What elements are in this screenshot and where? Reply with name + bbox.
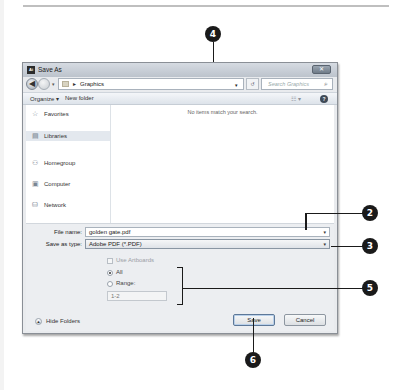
range-radio[interactable] xyxy=(107,281,113,287)
file-name-value: golden gate.pdf xyxy=(89,229,130,235)
sidebar-item-libraries[interactable]: ▤ Libraries xyxy=(26,131,110,141)
address-dropdown-icon[interactable]: ▾ xyxy=(235,82,238,88)
address-bar[interactable]: ▸ Graphics ▾ xyxy=(58,78,244,90)
organize-button[interactable]: Organize ▾ xyxy=(30,95,59,102)
search-input[interactable]: Search Graphics ⌕ xyxy=(261,78,333,90)
range-input[interactable]: 1-2 xyxy=(107,291,167,301)
back-button[interactable]: ◀ xyxy=(26,78,38,90)
all-radio[interactable] xyxy=(107,270,113,276)
back-arrow-icon: ◀ xyxy=(29,79,35,88)
chevron-down-icon[interactable]: ▾ xyxy=(323,241,326,247)
range-value: 1-2 xyxy=(111,293,120,299)
callout-2: 2 xyxy=(362,205,378,221)
close-icon: ✕ xyxy=(319,66,324,72)
use-artboards-label: Use Artboards xyxy=(116,257,154,263)
all-radio-label: All xyxy=(116,269,123,275)
cancel-button[interactable]: Cancel xyxy=(284,314,326,326)
sidebar-item-label: Homegroup xyxy=(44,160,75,166)
search-placeholder: Search Graphics xyxy=(268,81,309,87)
refresh-button[interactable]: ↺ xyxy=(246,78,259,90)
empty-results-message: No items match your search. xyxy=(111,109,334,115)
hide-folders-icon[interactable]: ▲ xyxy=(35,318,42,325)
new-folder-button[interactable]: New folder xyxy=(65,95,94,101)
title-bar: Ai Save As ✕ xyxy=(23,63,337,77)
illustrator-app-icon: Ai xyxy=(27,66,35,74)
refresh-icon: ↺ xyxy=(250,81,254,87)
use-artboards-checkbox[interactable] xyxy=(107,258,113,264)
sidebar-item-label: Libraries xyxy=(44,133,67,139)
range-radio-label: Range: xyxy=(116,280,135,286)
callout-4: 4 xyxy=(205,26,221,42)
save-button[interactable]: Save xyxy=(233,314,275,326)
navigation-pane: ☆ Favorites ▤ Libraries ⚇ Homegroup ▣ Co… xyxy=(26,105,111,223)
computer-icon: ▣ xyxy=(32,180,39,188)
save-as-type-value: Adobe PDF (*.PDF) xyxy=(89,241,142,247)
callout-3: 3 xyxy=(362,238,378,254)
close-button[interactable]: ✕ xyxy=(312,65,331,74)
navigation-bar: ◀ ▾ ▸ Graphics ▾ ↺ Search Graphics ⌕ xyxy=(23,77,337,92)
file-name-label: File name: xyxy=(32,229,82,235)
top-rule-divider xyxy=(23,5,389,7)
dialog-title: Save As xyxy=(38,66,62,73)
sidebar-item-label: Network xyxy=(44,202,66,208)
callout-5-leader-line xyxy=(183,288,363,290)
save-as-type-select[interactable]: Adobe PDF (*.PDF) ▾ xyxy=(85,239,330,249)
folder-icon xyxy=(62,81,69,87)
callout-2-leader-vertical xyxy=(305,213,307,230)
search-icon[interactable]: ⌕ xyxy=(324,80,328,88)
breadcrumb-graphics[interactable]: Graphics xyxy=(80,81,104,87)
forward-button[interactable] xyxy=(38,78,50,90)
callout-6-leader-line xyxy=(253,318,255,354)
homegroup-icon: ⚇ xyxy=(32,159,38,167)
page-left-edge xyxy=(0,0,4,390)
network-icon: ⛁ xyxy=(32,201,38,209)
sidebar-item-network[interactable]: ⛁ Network xyxy=(26,200,110,210)
callout-5: 5 xyxy=(362,280,378,296)
callout-5-bracket xyxy=(177,267,183,305)
callout-2-leader-line xyxy=(305,213,363,215)
file-name-input[interactable]: golden gate.pdf ▾ xyxy=(85,227,330,237)
sidebar-item-homegroup[interactable]: ⚇ Homegroup xyxy=(26,158,110,168)
callout-3-leader-line xyxy=(331,246,363,248)
file-list-pane[interactable]: No items match your search. xyxy=(111,105,334,223)
sidebar-item-computer[interactable]: ▣ Computer xyxy=(26,179,110,189)
change-view-button[interactable]: ☷ ▾ xyxy=(291,95,301,102)
sidebar-item-favorites[interactable]: ☆ Favorites xyxy=(26,109,110,119)
sidebar-item-label: Computer xyxy=(44,181,70,187)
recent-pages-dropdown-icon[interactable]: ▾ xyxy=(52,81,55,87)
chevron-down-icon[interactable]: ▾ xyxy=(323,229,326,235)
sidebar-item-label: Favorites xyxy=(44,111,69,117)
save-as-type-label: Save as type: xyxy=(32,241,82,247)
command-toolbar: Organize ▾ New folder ☷ ▾ ? xyxy=(23,92,337,105)
star-icon: ☆ xyxy=(32,110,38,118)
help-icon[interactable]: ? xyxy=(320,95,328,103)
callout-6: 6 xyxy=(245,352,261,368)
breadcrumb-chevron-icon[interactable]: ▸ xyxy=(73,80,76,87)
libraries-icon: ▤ xyxy=(32,132,39,140)
hide-folders-button[interactable]: Hide Folders xyxy=(46,318,80,324)
